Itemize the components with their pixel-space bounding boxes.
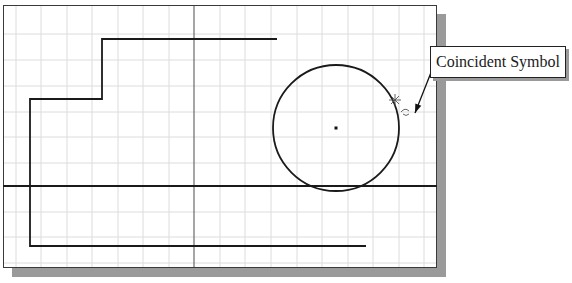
sketch-drawing[interactable]: [0, 0, 572, 283]
callout-label: Coincident Symbol: [436, 53, 560, 71]
sketch-polyline[interactable]: [30, 39, 366, 246]
circle-center-point[interactable]: [335, 127, 338, 130]
sketch-grid: [4, 6, 436, 267]
figure-stage: Coincident Symbol: [0, 0, 572, 283]
coincident-symbol-callout: Coincident Symbol: [430, 46, 566, 78]
